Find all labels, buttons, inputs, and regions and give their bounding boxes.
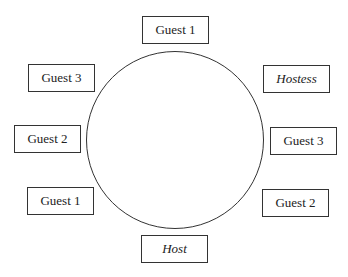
seat-bottom-host: Host (141, 235, 208, 263)
seat-lower-left-guest-1: Guest 1 (27, 187, 94, 215)
seat-lower-right-guest-2: Guest 2 (262, 189, 329, 217)
seat-right-guest-3: Guest 3 (270, 127, 337, 155)
seat-top-guest-1: Guest 1 (142, 16, 209, 44)
seat-upper-right-hostess: Hostess (263, 65, 330, 93)
round-table (86, 51, 264, 229)
seat-left-guest-2: Guest 2 (14, 125, 81, 153)
seat-upper-left-guest-3: Guest 3 (28, 64, 95, 92)
